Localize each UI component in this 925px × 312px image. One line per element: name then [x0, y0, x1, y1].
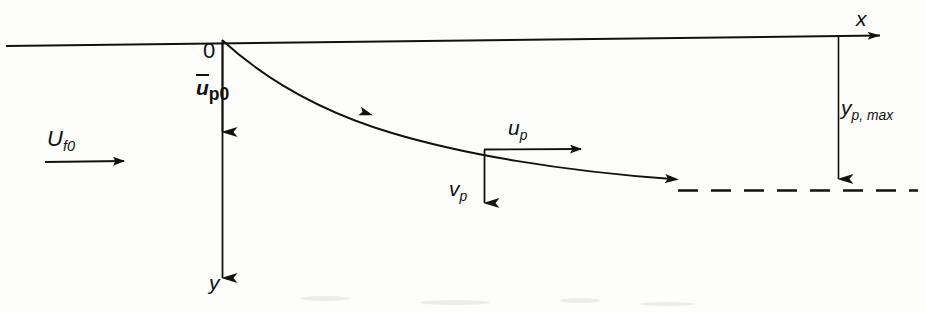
particle-trajectory-figure: 0 x y up0 Uf0 up vp yp, max — [0, 0, 925, 312]
scan-artifact — [420, 300, 490, 305]
x-axis-label: x — [856, 8, 867, 29]
up-component-arrow — [484, 149, 581, 150]
fluid-velocity-symbol: U — [47, 126, 63, 151]
trajectory-direction-arrow — [358, 107, 374, 120]
vp-subscript: p — [460, 188, 468, 204]
up-subscript: p — [520, 127, 528, 143]
up-symbol: u — [508, 116, 520, 139]
scan-artifact — [560, 298, 600, 303]
fluid-velocity-subscript: f0 — [63, 138, 75, 154]
fluid-velocity-arrow — [45, 161, 124, 162]
ypmax-subscript: p, max — [852, 107, 894, 123]
fluid-velocity-label: Uf0 — [47, 128, 75, 154]
up-component-label: up — [508, 117, 527, 143]
max-depth-label: yp, max — [841, 97, 893, 123]
mean-particle-velocity-label: up0 — [196, 74, 229, 104]
scan-artifact — [640, 302, 695, 306]
x-axis-line — [6, 36, 880, 47]
u-bar-subscript: p0 — [209, 84, 229, 104]
y-axis-label: y — [209, 272, 220, 293]
scan-artifact — [300, 296, 350, 301]
particle-trajectory-curve — [222, 40, 672, 179]
vp-symbol: v — [449, 177, 460, 200]
diagram-canvas — [0, 0, 925, 312]
origin-label: 0 — [203, 40, 215, 62]
ypmax-symbol: y — [841, 96, 852, 119]
u-bar-symbol: u — [196, 74, 209, 98]
vp-component-label: vp — [449, 178, 467, 204]
